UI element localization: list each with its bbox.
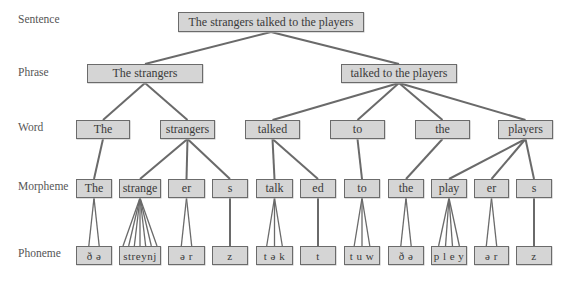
connector-line — [94, 139, 103, 179]
connector-line — [103, 83, 145, 120]
connector-line — [267, 198, 275, 246]
connector-line — [94, 198, 99, 246]
connector-line — [271, 32, 399, 64]
level-label-word: Word — [18, 121, 43, 133]
connector-line — [187, 139, 188, 179]
connector-line — [358, 139, 363, 179]
connector-lines — [0, 0, 569, 281]
level-label-morpheme: Morpheme — [18, 180, 68, 192]
connector-line — [89, 198, 94, 246]
morpheme-node: ed — [300, 179, 336, 198]
connector-line — [140, 198, 151, 246]
phoneme-node: t u w — [344, 246, 380, 265]
connector-line — [406, 198, 411, 246]
phoneme-node: p l e y — [431, 246, 467, 265]
word-node: The — [76, 120, 130, 139]
morpheme-node: to — [344, 179, 380, 198]
connector-line — [526, 139, 535, 179]
word-node: talked — [245, 120, 300, 139]
phoneme-node: z — [516, 246, 552, 265]
connector-line — [492, 198, 497, 246]
connector-line — [273, 83, 400, 120]
phrase-node: talked to the players — [341, 64, 457, 83]
level-label-sentence: Sentence — [18, 13, 60, 25]
phoneme-node: ə r — [474, 246, 509, 265]
connector-line — [354, 198, 362, 246]
morpheme-node: play — [431, 179, 467, 198]
morpheme-node: the — [388, 179, 424, 198]
connector-line — [486, 198, 491, 246]
morpheme-node: er — [474, 179, 509, 198]
connector-line — [188, 139, 231, 179]
connector-line — [492, 139, 526, 179]
connector-line — [273, 139, 319, 179]
morpheme-node: The — [76, 179, 112, 198]
sentence-node: The strangers talked to the players — [178, 12, 364, 32]
morpheme-node: strange — [119, 179, 161, 198]
connector-line — [401, 198, 406, 246]
connector-line — [273, 139, 275, 179]
connector-line — [362, 198, 370, 246]
word-node: players — [498, 120, 553, 139]
phoneme-node: ð ə — [388, 246, 424, 265]
connector-line — [406, 139, 443, 179]
connector-line — [145, 83, 188, 120]
connector-line — [145, 32, 271, 64]
connector-line — [140, 139, 188, 179]
connector-line — [187, 198, 192, 246]
connector-line — [449, 139, 526, 179]
phoneme-node: ð ə — [76, 246, 112, 265]
connector-line — [181, 198, 186, 246]
linguistic-hierarchy-diagram: Sentence Phrase Word Morpheme Phoneme Th… — [0, 0, 569, 281]
morpheme-node: s — [212, 179, 248, 198]
level-label-phoneme: Phoneme — [18, 247, 61, 259]
phoneme-node: t ə k — [256, 246, 293, 265]
phoneme-node: z — [212, 246, 248, 265]
morpheme-node: s — [516, 179, 552, 198]
morpheme-node: talk — [256, 179, 293, 198]
word-node: to — [330, 120, 385, 139]
level-label-phrase: Phrase — [18, 66, 49, 78]
connector-line — [399, 83, 526, 120]
word-node: strangers — [160, 120, 215, 139]
morpheme-node: er — [168, 179, 205, 198]
phoneme-node: t — [300, 246, 336, 265]
connector-line — [275, 198, 283, 246]
phoneme-node: ə r — [168, 246, 205, 265]
phoneme-node: streynj — [119, 246, 161, 265]
word-node: the — [415, 120, 470, 139]
phrase-node: The strangers — [87, 64, 203, 83]
connector-line — [129, 198, 140, 246]
